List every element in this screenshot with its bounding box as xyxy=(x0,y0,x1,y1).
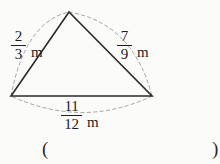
unit-label-bottom: m xyxy=(87,115,99,130)
unit-label-left: m xyxy=(31,45,43,60)
fraction-bottom-denominator: 12 xyxy=(63,117,80,132)
side-length-label-left: 2 3 m xyxy=(11,29,43,63)
fraction-left-denominator: 3 xyxy=(14,47,23,62)
unit-label-right: m xyxy=(137,45,149,60)
fraction-right-numerator: 7 xyxy=(120,29,129,44)
figure-canvas xyxy=(0,0,220,164)
side-length-label-right: 7 9 m xyxy=(117,29,149,63)
triangle-perimeter-figure: 2 3 m 7 9 m 11 12 m ( ) xyxy=(0,0,220,164)
side-length-label-bottom: 11 12 m xyxy=(61,99,99,133)
fraction-right-denominator: 9 xyxy=(120,47,129,62)
answer-paren-open: ( xyxy=(42,139,48,158)
fraction-right: 7 9 xyxy=(117,29,132,63)
fraction-bottom-numerator: 11 xyxy=(63,99,79,114)
fraction-left-numerator: 2 xyxy=(14,29,23,44)
fraction-left: 2 3 xyxy=(11,29,26,63)
fraction-bottom: 11 12 xyxy=(61,99,82,133)
answer-paren-close: ) xyxy=(212,139,218,158)
